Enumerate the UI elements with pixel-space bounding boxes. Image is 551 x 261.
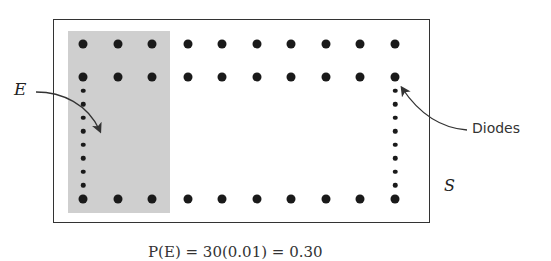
- event-arrow: [36, 92, 100, 131]
- diodes-label: Diodes: [472, 120, 520, 136]
- sample-space-label: S: [444, 176, 455, 195]
- event-label: E: [14, 79, 26, 99]
- diodes-arrow: [402, 88, 467, 130]
- probability-formula: P(E) = 30(0.01) = 0.30: [148, 243, 323, 261]
